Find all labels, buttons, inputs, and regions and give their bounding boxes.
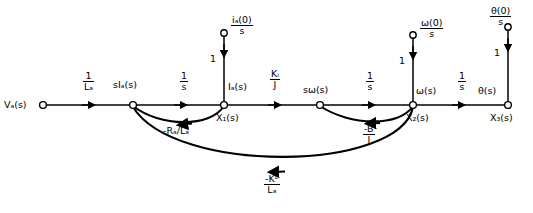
node-circle-sw[interactable] [317, 102, 324, 109]
source-label-th0: θ(0) s [490, 6, 511, 27]
gain-label-1-la: 1 Lₐ [83, 71, 94, 92]
gain-1-la-denominator: Lₐ [83, 81, 94, 92]
unit-gain-label-ia0: 1 [210, 54, 216, 64]
source-branch-group [224, 27, 508, 105]
source-th0-denominator: s [490, 16, 511, 27]
gain-1-s-a-numerator: 1 [180, 71, 188, 81]
node-label-ia: Iₐ(s) [228, 82, 247, 92]
node-label-x1: X₁(s) [216, 113, 239, 123]
gain-1-s-b-denominator: s [366, 81, 374, 92]
gain-label-b-j: -B J [363, 124, 375, 145]
gain-1-s-c-denominator: s [458, 81, 466, 92]
gain-1-s-a-denominator: s [180, 81, 188, 92]
source-ia0-numerator: iₐ(0) [231, 15, 253, 25]
source-label-ia0: iₐ(0) s [231, 15, 253, 36]
gain-1-s-c-numerator: 1 [458, 71, 466, 81]
gain-ki-j-denominator: J [270, 79, 280, 90]
node-label-sw: sω(s) [303, 85, 328, 95]
node-label-x2: X₂(s) [406, 113, 429, 123]
source-ia0-denominator: s [231, 25, 253, 36]
node-circle-va[interactable] [40, 102, 47, 109]
gain-ki-j-numerator: Kᵢ [270, 69, 280, 79]
gain-b-j-denominator: J [363, 134, 375, 145]
node-circle-source-w0[interactable] [410, 32, 416, 38]
feedback-arc-b-j [320, 106, 413, 121]
node-circle-x3[interactable] [505, 102, 512, 109]
arrow-feedback-kb-la [273, 172, 285, 173]
gain-label-1-s-b: 1 s [366, 71, 374, 92]
unit-gain-label-w0: 1 [399, 56, 405, 66]
unit-gain-label-th0: 1 [494, 48, 500, 58]
gain-kb-la-numerator: -Kᵇ [264, 174, 280, 184]
gain-1-s-b-numerator: 1 [366, 71, 374, 81]
node-label-x3: X₃(s) [490, 113, 513, 123]
node-label-w: ω(s) [416, 86, 436, 96]
node-circle-x2[interactable] [410, 102, 417, 109]
gain-1-la-numerator: 1 [83, 71, 94, 81]
signal-flow-graph-canvas: Vₐ(s) sIₐ(s) Iₐ(s) X₁(s) sω(s) ω(s) X₂(s… [0, 0, 533, 213]
node-circle-sia[interactable] [130, 102, 137, 109]
source-th0-numerator: θ(0) [490, 6, 511, 16]
source-w0-numerator: ω(0) [420, 18, 443, 28]
gain-label-1-s-c: 1 s [458, 71, 466, 92]
gain-label-kb-la: -Kᵇ Lₐ [264, 174, 280, 195]
gain-label-1-s-a: 1 s [180, 71, 188, 92]
node-label-th: θ(s) [478, 86, 496, 96]
node-circle-x1[interactable] [221, 102, 228, 109]
gain-label-ki-j: Kᵢ J [270, 69, 280, 90]
node-label-va: Vₐ(s) [4, 100, 27, 110]
gain-b-j-numerator: -B [363, 124, 375, 134]
node-label-sia: sIₐ(s) [113, 80, 137, 90]
node-circle-source-ia0[interactable] [221, 30, 227, 36]
source-w0-denominator: s [420, 28, 443, 39]
source-label-w0: ω(0) s [420, 18, 443, 39]
gain-kb-la-denominator: Lₐ [264, 184, 280, 195]
feedback-arc-ra-la [133, 106, 224, 122]
gain-label-ra-la: -Rₐ/Lₐ [163, 126, 189, 136]
